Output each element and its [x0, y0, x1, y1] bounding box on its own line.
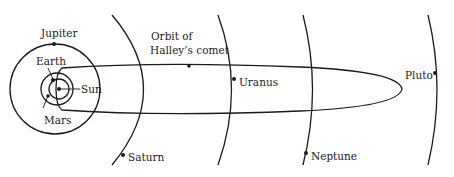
- uranus-dot: [232, 77, 236, 81]
- earth-dot: [51, 78, 55, 82]
- pluto-dot: [433, 71, 437, 75]
- mars-dot: [46, 94, 50, 98]
- halley-label-line1: Orbit of: [151, 30, 194, 42]
- saturn-orbit: [112, 15, 144, 165]
- earth-label: Earth: [36, 55, 66, 67]
- halley-orbit: [56, 64, 402, 113]
- halley-dot: [187, 64, 191, 68]
- neptune-dot: [304, 151, 308, 155]
- sun-label: Sun: [81, 83, 102, 95]
- neptune-label: Neptune: [311, 150, 357, 162]
- pluto-orbit: [428, 15, 437, 165]
- saturn-label: Saturn: [128, 151, 164, 163]
- uranus-orbit: [218, 15, 232, 165]
- pluto-label: Pluto: [405, 69, 433, 81]
- uranus-label: Uranus: [239, 76, 278, 88]
- halley-label-line2: Halley’s comet: [150, 44, 230, 56]
- mars-label: Mars: [44, 114, 71, 126]
- solar-system-diagram: Jupiter Earth Sun Mars Saturn Orbit of H…: [0, 0, 454, 177]
- jupiter-dot: [52, 42, 56, 46]
- neptune-orbit: [303, 15, 313, 165]
- jupiter-label: Jupiter: [40, 27, 78, 39]
- sun-dot: [57, 87, 61, 91]
- saturn-dot: [121, 153, 125, 157]
